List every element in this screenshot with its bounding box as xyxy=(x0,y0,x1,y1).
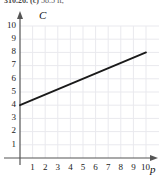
y-axis-label: C xyxy=(39,9,46,21)
y-tick-label-2: 2 xyxy=(0,125,16,135)
y-tick-label-10: 10 xyxy=(0,20,16,30)
grid-lines xyxy=(20,26,159,158)
y-axis xyxy=(17,11,23,165)
y-tick-label-5: 5 xyxy=(0,86,16,96)
y-tick-label-3: 3 xyxy=(0,112,16,122)
graph-figure xyxy=(0,0,163,183)
y-tick-label-6: 6 xyxy=(0,73,16,83)
y-tick-label-8: 8 xyxy=(0,46,16,56)
y-tick-label-7: 7 xyxy=(0,59,16,69)
y-tick-label-4: 4 xyxy=(0,99,16,109)
y-tick-label-1: 1 xyxy=(0,139,16,149)
y-tick-label-9: 9 xyxy=(0,33,16,43)
x-tick-label-10: 10 xyxy=(139,162,153,172)
x-axis xyxy=(4,155,158,161)
